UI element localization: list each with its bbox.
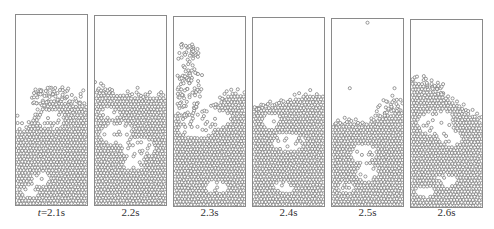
particle-field [95, 16, 166, 205]
snapshot-panel [252, 17, 325, 207]
time-value: =2.1s [41, 206, 65, 218]
snapshot-panel [331, 18, 404, 207]
snapshot-panel [15, 14, 88, 206]
time-label: 2.3s [170, 205, 250, 219]
particle-field [174, 17, 245, 206]
snapshot-panel [94, 15, 167, 206]
time-label: 2.6s [407, 205, 487, 219]
snapshot-panel [173, 16, 246, 207]
particle-field [332, 19, 403, 206]
particle-field [16, 15, 87, 205]
time-label: 2.4s [249, 205, 329, 219]
particle-field [253, 18, 324, 206]
time-label: 2.5s [328, 205, 408, 219]
snapshot-panel [410, 19, 483, 208]
particle-field [411, 20, 482, 207]
time-label: 2.2s [91, 205, 171, 219]
time-label: t=2.1s [12, 205, 92, 219]
